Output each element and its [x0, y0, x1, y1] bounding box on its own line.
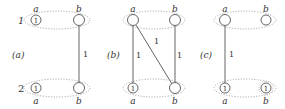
node-bottom-a-label: a	[33, 96, 38, 106]
node-bottom-b-label: b	[263, 96, 269, 106]
node-top-a	[220, 15, 231, 26]
edge-weight: 1	[154, 37, 159, 46]
edge-weight: 1	[229, 50, 234, 59]
panel-label-a: (a)	[12, 50, 25, 60]
node-top-b-label: b	[172, 4, 178, 14]
node-top-a-label: a	[222, 4, 227, 14]
node-bottom-a-mark: 1	[131, 85, 135, 93]
row-label-top: 1	[18, 15, 24, 26]
panel-b: 1 1 1 a b 1 a b (b)	[107, 4, 185, 106]
panel-label-c: (c)	[200, 50, 213, 60]
edge-weight: 1	[177, 51, 182, 60]
node-bottom-a-mark: 1	[223, 85, 227, 93]
node-bottom-a-label: a	[222, 96, 227, 106]
node-top-b-label: b	[263, 4, 269, 14]
node-top-a	[128, 15, 139, 26]
node-top-b	[261, 15, 271, 25]
node-bottom-b-label: b	[172, 96, 178, 106]
node-top-b	[74, 15, 85, 26]
node-top-a-label: a	[130, 4, 135, 14]
node-top-b-label: b	[76, 4, 82, 14]
node-bottom-b-mark: 1	[264, 85, 268, 93]
panel-c: 1 a b 1 a 1 b (c)	[200, 4, 276, 106]
node-top-a-label: a	[33, 4, 38, 14]
edge-top-a-bottom-b	[136, 25, 172, 84]
node-bottom-b-label: b	[76, 96, 82, 106]
panel-a: 1 1 2 1 a b 1 a b (a)	[12, 4, 90, 106]
node-bottom-a-mark: 1	[34, 85, 38, 93]
node-bottom-b	[170, 83, 181, 94]
node-top-b	[170, 15, 181, 26]
panel-label-b: (b)	[107, 50, 120, 60]
node-bottom-a-label: a	[130, 96, 135, 106]
node-top-a-mark: 1	[34, 17, 38, 25]
diagram: 1 1 2 1 a b 1 a b (a) 1 1 1 a b	[0, 0, 285, 109]
edge-weight: 1	[136, 51, 141, 60]
edge-weight: 1	[83, 50, 88, 59]
node-bottom-b	[74, 83, 85, 94]
row-label-bottom: 2	[18, 83, 24, 94]
